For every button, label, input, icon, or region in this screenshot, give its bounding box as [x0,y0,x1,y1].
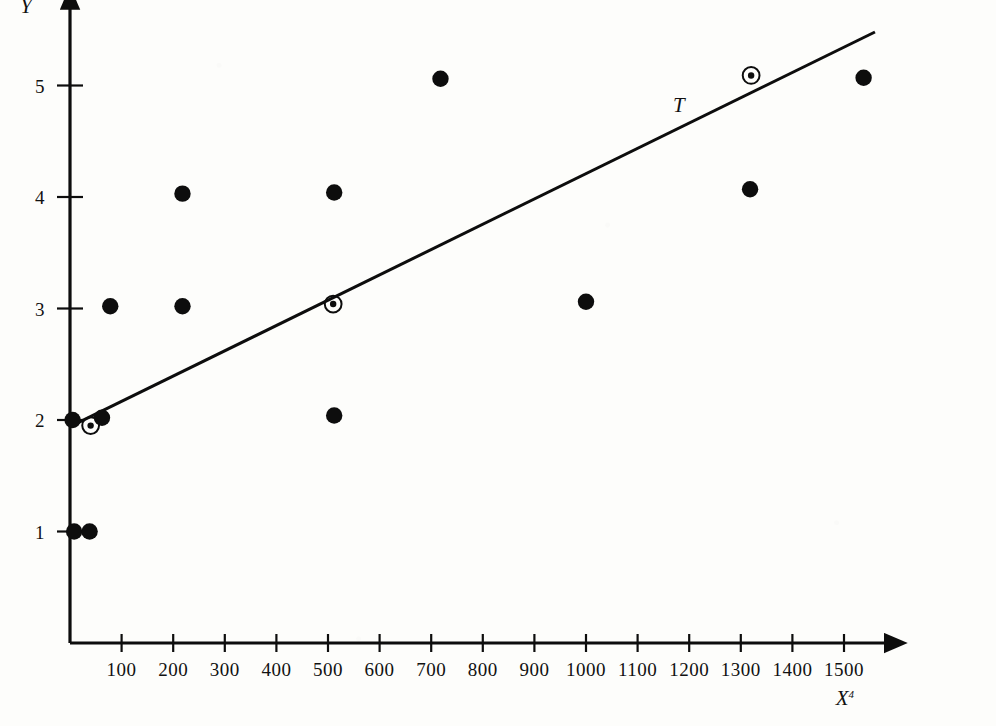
data-point [174,185,190,201]
data-point [102,298,118,314]
data-point-highlight-core [748,72,754,78]
x-tick-label: 600 [365,659,395,680]
x-tick-label: 300 [210,659,240,680]
x-tick-label: 1200 [669,659,709,680]
x-tick-label: 100 [107,659,137,680]
x-tick-label: 700 [416,659,446,680]
x-tick-label: 1000 [566,659,606,680]
data-point-highlight-core [330,301,336,307]
data-point [174,298,190,314]
plot-canvas: 1002003004005006007008009001000110012001… [0,0,996,726]
y-axis-label: Y [20,0,34,18]
trend-line-layer [70,32,875,427]
y-tick-label: 5 [35,76,45,97]
x-tick-label: 1500 [824,659,864,680]
data-point [64,412,80,428]
data-point [94,410,110,426]
data-point [66,523,82,539]
x-tick-label: 1100 [618,659,657,680]
x-tick-label: 200 [158,659,188,680]
label-layer: 1002003004005006007008009001000110012001… [20,0,864,710]
trend-line-label: T [673,93,686,117]
x-tick-label: 1400 [772,659,812,680]
x-tick-label: 900 [519,659,549,680]
y-tick-label: 2 [35,410,45,431]
x-tick-label: 1300 [721,659,761,680]
x-tick-label: 400 [261,659,291,680]
x-tick-label: 800 [468,659,498,680]
x-tick-label: 500 [313,659,343,680]
trend-line-T [70,32,875,427]
y-tick-label: 3 [35,299,45,320]
x-axis-label-superscript: 4 [849,688,855,700]
data-point [742,181,758,197]
tick-layer [57,86,844,653]
data-point-highlight-core [87,422,93,428]
y-tick-label: 4 [35,187,45,208]
x-axis-label: X4 [835,686,855,710]
data-point-layer [64,67,871,540]
data-point [326,407,342,423]
scatter-plot-figure: 1002003004005006007008009001000110012001… [0,0,996,726]
data-point [326,184,342,200]
data-point [81,523,97,539]
data-point [432,71,448,87]
data-point [578,294,594,310]
data-point [855,69,871,85]
axes-layer [70,7,887,643]
y-tick-label: 1 [35,522,45,543]
